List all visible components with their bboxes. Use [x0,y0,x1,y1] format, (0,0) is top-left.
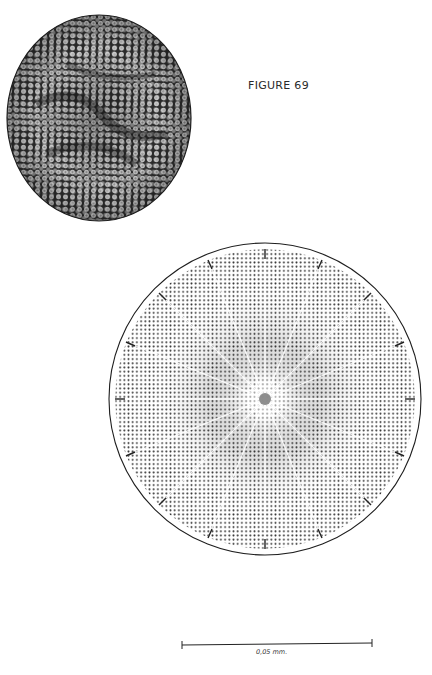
figure-plate: FIGURE 69 [0,0,432,675]
scale-bar-label: 0,05 mm. [256,648,287,656]
photomicrograph-image [6,14,192,222]
valve-line-drawing [104,238,426,560]
figure-title: FIGURE 69 [248,79,309,92]
